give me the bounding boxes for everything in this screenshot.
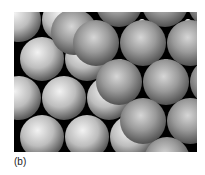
figure-caption-label: (b) — [14, 156, 26, 167]
sphere-packing-illustration — [14, 12, 197, 152]
sphere-packing-image — [14, 12, 197, 152]
